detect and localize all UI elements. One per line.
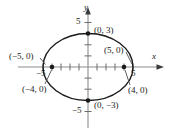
point-label-right-focus: (4, 0) [128,86,148,95]
point-top [86,31,91,36]
point-label-left-vertex: (−5, 0) [9,52,34,61]
point-label-top: (0, 3) [94,26,114,35]
x-axis-arrow-icon [157,64,165,70]
x-axis-label: x [152,52,156,61]
point-label-left-focus: (−4, 0) [22,85,47,94]
x-tick-label-negative: −5 [36,69,46,78]
point-left-focus [50,65,55,70]
y-tick-label-negative: −5 [72,106,82,115]
coordinate-plot [0,0,171,131]
point-bottom [86,98,91,103]
point-label-right-vertex: (5, 0) [104,46,124,55]
point-right-focus [122,65,127,70]
x-tick-label-positive: 5 [131,69,136,78]
y-axis-label: y [84,3,88,12]
y-tick-label-positive: 5 [76,17,81,26]
point-label-bottom: (0, −3) [94,101,119,110]
ellipse-figure: y x 5 −5 −5 5 (0, 3) (0, −3) (−5, 0) (5,… [0,0,171,131]
